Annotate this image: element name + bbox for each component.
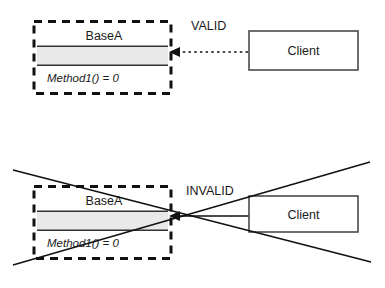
uml-diagram-root: BaseA Method1() = 0 VALID Client bbox=[0, 0, 385, 288]
class-method-basea: Method1() = 0 bbox=[47, 237, 120, 249]
verdict-label-invalid: INVALID bbox=[186, 184, 234, 198]
panel-invalid: BaseA Method1() = 0 INVALID Client bbox=[13, 162, 371, 265]
shaded-compartment bbox=[37, 47, 168, 65]
class-box-client-valid[interactable]: Client bbox=[249, 31, 358, 70]
class-box-client-invalid[interactable]: Client bbox=[249, 196, 358, 232]
class-name-client: Client bbox=[288, 208, 320, 222]
class-box-basea-valid[interactable]: BaseA Method1() = 0 bbox=[34, 22, 171, 94]
shaded-compartment bbox=[37, 212, 168, 230]
class-method-basea: Method1() = 0 bbox=[47, 72, 120, 84]
class-name-basea: BaseA bbox=[86, 29, 123, 43]
verdict-label-valid: VALID bbox=[191, 19, 226, 33]
diagram-canvas: BaseA Method1() = 0 VALID Client bbox=[0, 0, 385, 288]
panel-valid: BaseA Method1() = 0 VALID Client bbox=[34, 19, 358, 94]
dependency-arrow-valid[interactable] bbox=[169, 47, 248, 57]
class-box-basea-invalid[interactable]: BaseA Method1() = 0 bbox=[34, 187, 171, 259]
class-name-client: Client bbox=[288, 44, 320, 58]
